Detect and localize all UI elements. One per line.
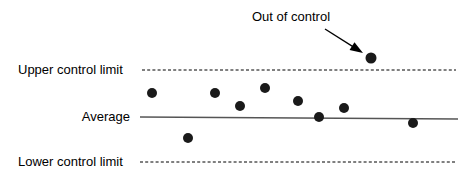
average-line bbox=[140, 117, 458, 119]
out-of-control-annotation-label: Out of control bbox=[252, 10, 330, 23]
control-chart-canvas bbox=[0, 0, 468, 180]
upper-control-limit-label: Upper control limit bbox=[18, 63, 123, 76]
data-point bbox=[147, 88, 157, 98]
lower-control-limit-label: Lower control limit bbox=[18, 155, 123, 168]
data-point-out-of-control bbox=[366, 53, 377, 64]
data-points bbox=[147, 53, 418, 144]
data-point bbox=[235, 101, 245, 111]
control-chart: Upper control limit Average Lower contro… bbox=[0, 0, 468, 180]
data-point bbox=[314, 112, 324, 122]
data-point bbox=[260, 83, 270, 93]
data-point bbox=[339, 103, 349, 113]
out-of-control-arrow bbox=[325, 29, 363, 53]
data-point bbox=[408, 118, 418, 128]
data-point bbox=[293, 96, 303, 106]
average-label: Average bbox=[18, 110, 130, 123]
data-point bbox=[183, 133, 193, 143]
data-point bbox=[210, 88, 220, 98]
